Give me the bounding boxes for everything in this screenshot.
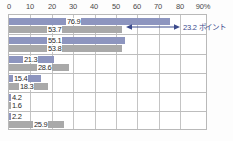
bar-value-25-9: 25.9 (33, 121, 48, 128)
difference-label: 23.2 ポイント (183, 21, 226, 32)
bar-gray-1 (9, 26, 122, 33)
row-separator-3 (9, 73, 206, 74)
x-tick-40: 40 (90, 2, 98, 11)
bar-value-28-6: 28.6 (37, 64, 52, 71)
x-tick-70: 70 (154, 2, 162, 11)
x-tick-20: 20 (48, 2, 56, 11)
x-tick-50: 50 (112, 2, 120, 11)
double-headed-arrow-icon (126, 22, 182, 32)
row-separator-4 (9, 92, 206, 93)
bar-value-1-6: 1.6 (11, 102, 23, 109)
bar-value-53-8: 53.8 (47, 45, 62, 52)
bar-value-15-4: 15.4 (13, 75, 28, 82)
bar-value-55-1: 55.1 (47, 37, 62, 44)
bar-chart: 0 10 20 30 40 50 60 70 80 90% 76.9 53.7 (0, 0, 233, 141)
row-separator-5 (9, 111, 206, 112)
x-tick-90: 90% (196, 2, 210, 11)
bar-value-53-7: 53.7 (47, 26, 62, 33)
bar-gray-2 (9, 45, 122, 52)
x-tick-80: 80 (176, 2, 184, 11)
bar-value-21-3: 21.3 (23, 56, 38, 63)
x-tick-30: 30 (69, 2, 77, 11)
row-separator-2 (9, 54, 206, 55)
x-tick-60: 60 (133, 2, 141, 11)
x-axis-tick-labels: 0 10 20 30 40 50 60 70 80 90% (0, 0, 233, 14)
bar-blue-2 (9, 37, 125, 44)
bar-value-18-3: 18.3 (19, 83, 34, 90)
bar-value-2-2: 2.2 (11, 113, 23, 120)
x-tick-10: 10 (26, 2, 34, 11)
bar-value-76-9: 76.9 (66, 18, 81, 25)
bar-value-4-2: 4.2 (11, 94, 23, 101)
row-separator-1 (9, 34, 206, 35)
x-tick-0: 0 (7, 2, 11, 11)
